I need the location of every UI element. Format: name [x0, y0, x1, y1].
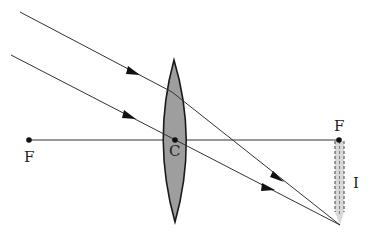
focus-left-point — [26, 137, 32, 143]
focus-right-point — [336, 137, 342, 143]
lens-diagram: F C F I — [0, 0, 373, 239]
arrow-icon — [122, 110, 136, 119]
arrow-icon — [270, 171, 284, 182]
focus-right-label: F — [334, 117, 344, 135]
arrow-icon — [261, 183, 275, 191]
arrow-icon — [126, 66, 140, 75]
focus-left-label: F — [24, 148, 34, 166]
image-arrow — [335, 141, 344, 225]
image-label: I — [353, 174, 359, 192]
center-label: C — [169, 142, 180, 160]
